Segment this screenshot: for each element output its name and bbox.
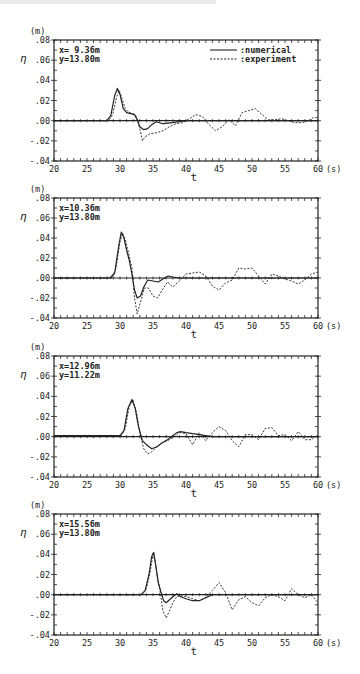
x-tick-label: 55 — [280, 638, 290, 648]
y-tick-label: -.04 — [30, 313, 50, 323]
y-tick-label: .08 — [35, 193, 50, 203]
x-tick-label: 30 — [115, 321, 125, 331]
x-tick-label: 25 — [82, 638, 92, 648]
series-experiment — [54, 233, 318, 314]
y-axis-label-eta: η — [20, 52, 27, 65]
x-tick-label: 60 — [313, 638, 323, 648]
x-tick-label: 35 — [148, 321, 158, 331]
x-tick-label: 25 — [82, 164, 92, 174]
y-tick-label: .06 — [35, 213, 50, 223]
x-tick-label: 45 — [214, 321, 224, 331]
y-tick-label: .08 — [35, 509, 50, 519]
x-unit-label: (s) — [326, 321, 341, 331]
series-numerical — [54, 399, 318, 448]
x-tick-label: 60 — [313, 164, 323, 174]
y-tick-label: .02 — [35, 253, 50, 263]
x-tick-label: 50 — [247, 480, 257, 490]
wave-elevation-figure: .08.06.04.02.00-.02-.0420253035404550556… — [0, 0, 360, 674]
x-tick-label: 60 — [313, 321, 323, 331]
series-experiment — [54, 90, 318, 140]
y-tick-label: -.02 — [30, 136, 50, 146]
y-tick-label: .00 — [35, 590, 50, 600]
y-axis-label-eta: η — [20, 210, 27, 223]
y-unit-label: (m) — [30, 26, 45, 36]
x-axis-label: t — [191, 171, 198, 184]
series-experiment — [54, 554, 318, 618]
gauge-y-position: y=11.22m — [59, 370, 100, 380]
x-tick-label: 20 — [49, 321, 59, 331]
y-axis-label-eta: η — [20, 368, 27, 381]
x-tick-label: 25 — [82, 321, 92, 331]
y-tick-label: .02 — [35, 412, 50, 422]
y-tick-label: .04 — [35, 391, 50, 401]
x-tick-label: 50 — [247, 321, 257, 331]
x-axis-label: t — [191, 328, 198, 341]
y-tick-label: .06 — [35, 55, 50, 65]
x-tick-label: 55 — [280, 321, 290, 331]
y-tick-label: .02 — [35, 570, 50, 580]
panel-3: .08.06.04.02.00-.02-.0420253035404550556… — [20, 342, 341, 500]
x-unit-label: (s) — [326, 164, 341, 174]
y-axis-label-eta: η — [20, 526, 27, 539]
y-tick-label: .04 — [35, 75, 50, 85]
y-tick-label: -.04 — [30, 630, 50, 640]
y-unit-label: (m) — [30, 184, 45, 194]
y-tick-label: -.04 — [30, 472, 50, 482]
x-tick-label: 35 — [148, 164, 158, 174]
x-tick-label: 45 — [214, 480, 224, 490]
y-tick-label: .04 — [35, 233, 50, 243]
x-tick-label: 20 — [49, 480, 59, 490]
y-tick-label: .02 — [35, 96, 50, 106]
y-tick-label: -.02 — [30, 610, 50, 620]
series-experiment — [54, 400, 318, 453]
y-tick-label: .08 — [35, 351, 50, 361]
y-tick-label: -.02 — [30, 293, 50, 303]
x-tick-label: 45 — [214, 164, 224, 174]
legend-experiment-label: :experiment — [240, 54, 296, 64]
series-numerical — [54, 88, 318, 129]
x-axis-label: t — [191, 487, 198, 500]
panel-4: .08.06.04.02.00-.02-.0420253035404550556… — [20, 500, 341, 658]
panel-1: .08.06.04.02.00-.02-.0420253035404550556… — [20, 26, 341, 184]
x-tick-label: 40 — [181, 321, 191, 331]
x-tick-label: 35 — [148, 480, 158, 490]
x-unit-label: (s) — [326, 480, 341, 490]
gauge-y-position: y=13.80m — [59, 212, 100, 222]
x-unit-label: (s) — [326, 638, 341, 648]
y-tick-label: .00 — [35, 116, 50, 126]
x-tick-label: 30 — [115, 480, 125, 490]
x-tick-label: 55 — [280, 480, 290, 490]
y-tick-label: .08 — [35, 35, 50, 45]
y-unit-label: (m) — [30, 342, 45, 352]
x-tick-label: 30 — [115, 638, 125, 648]
x-tick-label: 20 — [49, 638, 59, 648]
x-tick-label: 50 — [247, 638, 257, 648]
x-tick-label: 30 — [115, 164, 125, 174]
x-tick-label: 35 — [148, 638, 158, 648]
x-tick-label: 40 — [181, 638, 191, 648]
y-tick-label: .04 — [35, 549, 50, 559]
gauge-y-position: y=13.80m — [59, 528, 100, 538]
x-tick-label: 25 — [82, 480, 92, 490]
x-tick-label: 55 — [280, 164, 290, 174]
panel-2: .08.06.04.02.00-.02-.0420253035404550556… — [20, 184, 341, 341]
x-tick-label: 20 — [49, 164, 59, 174]
y-tick-label: .00 — [35, 273, 50, 283]
x-tick-label: 40 — [181, 164, 191, 174]
y-tick-label: .06 — [35, 529, 50, 539]
x-tick-label: 45 — [214, 638, 224, 648]
x-tick-label: 40 — [181, 480, 191, 490]
gauge-y-position: y=13.80m — [59, 54, 100, 64]
y-tick-label: .06 — [35, 371, 50, 381]
x-axis-label: t — [191, 645, 198, 658]
y-tick-label: -.02 — [30, 452, 50, 462]
y-unit-label: (m) — [30, 500, 45, 510]
y-tick-label: .00 — [35, 432, 50, 442]
x-tick-label: 60 — [313, 480, 323, 490]
series-numerical — [54, 232, 318, 298]
x-tick-label: 50 — [247, 164, 257, 174]
y-tick-label: -.04 — [30, 156, 50, 166]
